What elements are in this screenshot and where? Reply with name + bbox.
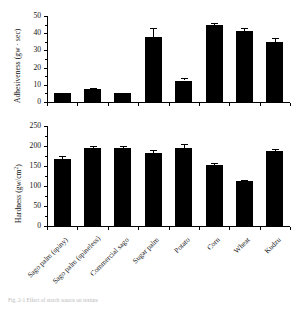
y-axis-tick bbox=[44, 126, 47, 127]
x-axis-tick bbox=[47, 103, 48, 106]
bar bbox=[175, 148, 192, 226]
y-axis-line bbox=[47, 126, 48, 227]
y-axis-tick-label: 50 bbox=[19, 12, 41, 20]
error-bar-cap bbox=[150, 28, 157, 29]
error-bar-cap bbox=[272, 38, 279, 39]
error-bar-cap bbox=[272, 149, 279, 150]
x-axis-tick bbox=[290, 227, 291, 230]
bar bbox=[145, 37, 162, 102]
x-axis-tick bbox=[108, 227, 109, 230]
error-bar-cap bbox=[181, 78, 188, 79]
error-bar-cap bbox=[120, 146, 127, 147]
y-axis-minor-tick bbox=[45, 156, 47, 157]
y-axis-tick bbox=[44, 85, 47, 86]
error-bar-cap bbox=[90, 146, 97, 147]
x-axis-tick bbox=[138, 103, 139, 106]
y-axis-label-hardness: Hardness (gw/cm2) bbox=[13, 164, 23, 223]
x-axis-tick bbox=[229, 103, 230, 106]
y-axis-tick bbox=[44, 33, 47, 34]
error-bar-cap bbox=[90, 88, 97, 89]
figure-container: 01020304050Adhesiveness (gw · sec) 05010… bbox=[0, 0, 299, 310]
y-axis-tick-label: 30 bbox=[19, 46, 41, 54]
x-axis-category-labels: Sago palm (spiny)Sago palm (spineless)Co… bbox=[0, 233, 299, 293]
x-axis-tick bbox=[260, 103, 261, 106]
y-axis-tick bbox=[44, 186, 47, 187]
error-bar-cap bbox=[211, 163, 218, 164]
y-axis-minor-tick bbox=[45, 216, 47, 217]
x-axis-tick bbox=[169, 103, 170, 106]
bar bbox=[266, 42, 283, 102]
bar bbox=[54, 159, 71, 226]
bar bbox=[114, 93, 131, 102]
error-bar-cap bbox=[241, 180, 248, 181]
y-axis-tick-label: 10 bbox=[19, 81, 41, 89]
x-axis-tick bbox=[169, 227, 170, 230]
y-axis-minor-tick bbox=[45, 59, 47, 60]
x-axis-tick bbox=[47, 227, 48, 230]
y-axis-minor-tick bbox=[45, 136, 47, 137]
y-axis-tick bbox=[44, 166, 47, 167]
error-bar-cap bbox=[120, 93, 127, 94]
bar bbox=[84, 148, 101, 226]
error-bar-cap bbox=[211, 23, 218, 24]
y-axis-tick-label: 40 bbox=[19, 29, 41, 37]
error-bar-cap bbox=[181, 144, 188, 145]
x-axis-tick bbox=[290, 103, 291, 106]
x-axis-tick bbox=[260, 227, 261, 230]
y-axis-tick-label: 0 bbox=[19, 98, 41, 106]
y-axis-tick bbox=[44, 206, 47, 207]
x-axis-tick bbox=[199, 227, 200, 230]
y-axis-tick bbox=[44, 68, 47, 69]
x-axis-tick bbox=[108, 103, 109, 106]
y-axis-line bbox=[47, 16, 48, 103]
y-axis-tick bbox=[44, 16, 47, 17]
error-bar-stem bbox=[153, 28, 154, 37]
bar bbox=[266, 151, 283, 226]
error-bar-cap bbox=[59, 93, 66, 94]
y-axis-minor-tick bbox=[45, 42, 47, 43]
error-bar-cap bbox=[241, 28, 248, 29]
x-axis-tick bbox=[77, 227, 78, 230]
hardness-chart-panel: 050100150200250Hardness (gw/cm2) bbox=[0, 118, 299, 233]
x-axis-tick bbox=[138, 227, 139, 230]
y-axis-tick-label: 200 bbox=[19, 142, 41, 150]
bar bbox=[114, 148, 131, 226]
x-axis-tick bbox=[77, 103, 78, 106]
x-axis-tick bbox=[229, 227, 230, 230]
y-axis-minor-tick bbox=[45, 25, 47, 26]
adhesiveness-chart-panel: 01020304050Adhesiveness (gw · sec) bbox=[0, 0, 299, 118]
x-axis-tick bbox=[199, 103, 200, 106]
y-axis-tick-label: 250 bbox=[19, 122, 41, 130]
figure-caption: Fig. 2-1 Effect of starch source on text… bbox=[8, 297, 293, 304]
error-bar-cap bbox=[59, 156, 66, 157]
y-axis-label-adhesiveness: Adhesiveness (gw · sec) bbox=[13, 29, 22, 103]
bar bbox=[84, 89, 101, 102]
y-axis-tick-label: 0 bbox=[19, 222, 41, 230]
bar bbox=[206, 25, 223, 102]
bar bbox=[236, 31, 253, 102]
bar bbox=[236, 181, 253, 226]
y-axis-minor-tick bbox=[45, 196, 47, 197]
bar bbox=[54, 93, 71, 102]
error-bar-cap bbox=[150, 150, 157, 151]
bar bbox=[175, 81, 192, 103]
y-axis-tick bbox=[44, 50, 47, 51]
bar bbox=[145, 153, 162, 226]
y-axis-minor-tick bbox=[45, 93, 47, 94]
y-axis-minor-tick bbox=[45, 76, 47, 77]
bar bbox=[206, 165, 223, 226]
y-axis-tick bbox=[44, 146, 47, 147]
y-axis-tick-label: 20 bbox=[19, 64, 41, 72]
y-axis-minor-tick bbox=[45, 176, 47, 177]
